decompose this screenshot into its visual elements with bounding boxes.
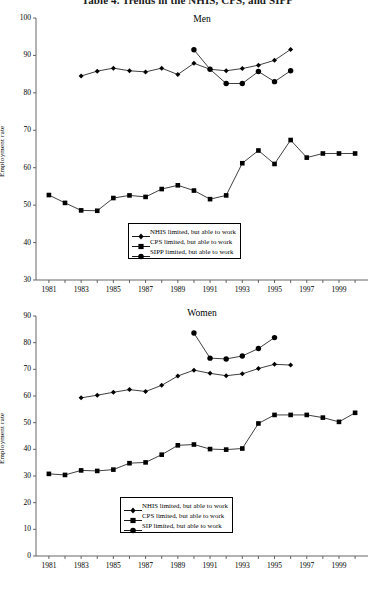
x-tick-label: 1989	[163, 285, 193, 294]
legend-item-nhis: NHIS limited, but able to work	[132, 226, 236, 236]
legend-label-cps: CPS limited, but able to work	[142, 512, 224, 519]
legend-item-cps: CPS limited, but able to work	[124, 510, 228, 520]
y-tick-label: 90	[6, 50, 31, 59]
legend-item-nhis: NHIS limited, but able to work	[124, 500, 228, 510]
legend-label-sipp: SIPP limited, but able to work	[150, 248, 234, 255]
x-tick-label: 1993	[227, 561, 257, 570]
plot-area-men	[0, 8, 375, 304]
chart-panel-men: Men Employment rate NHIS limited, but ab…	[0, 8, 375, 304]
y-tick-label: 80	[6, 88, 31, 97]
legend-item-cps: CPS limited, but able to work	[132, 236, 236, 246]
y-tick-label: 80	[6, 338, 31, 347]
y-tick-label: 20	[6, 498, 31, 507]
x-tick-label: 1987	[131, 561, 161, 570]
x-tick-label: 1991	[195, 285, 225, 294]
legend-label-sip: SIP limited, but able to work	[142, 522, 222, 529]
x-tick-label: 1981	[34, 561, 64, 570]
x-tick-label: 1995	[260, 561, 290, 570]
x-tick-label: 1997	[292, 561, 322, 570]
legend-men: NHIS limited, but able to work CPS limit…	[128, 223, 241, 259]
legend-item-sipp: SIPP limited, but able to work	[132, 246, 236, 256]
y-tick-label: 0	[6, 551, 31, 560]
diamond-marker-icon	[132, 227, 150, 236]
circle-marker-icon	[124, 521, 142, 530]
square-marker-icon	[132, 237, 150, 246]
circle-marker-icon	[132, 247, 150, 256]
y-tick-label: 70	[6, 125, 31, 134]
legend-label-nhis: NHIS limited, but able to work	[142, 502, 228, 509]
y-tick-label: 40	[6, 238, 31, 247]
square-marker-icon	[124, 511, 142, 520]
x-tick-label: 1999	[324, 561, 354, 570]
y-tick-label: 70	[6, 364, 31, 373]
x-tick-label: 1985	[98, 561, 128, 570]
x-tick-label: 1989	[163, 561, 193, 570]
diamond-marker-icon	[124, 501, 142, 510]
plot-area-women	[0, 304, 375, 594]
y-tick-label: 40	[6, 444, 31, 453]
legend-label-cps: CPS limited, but able to work	[150, 238, 232, 245]
x-tick-label: 1991	[195, 561, 225, 570]
y-tick-label: 90	[6, 311, 31, 320]
y-tick-label: 50	[6, 200, 31, 209]
figure-page: Table 4. Trends in the NHIS, CPS, and SI…	[0, 0, 375, 594]
y-tick-label: 30	[6, 471, 31, 480]
y-tick-label: 60	[6, 163, 31, 172]
legend-label-nhis: NHIS limited, but able to work	[150, 228, 236, 235]
x-tick-label: 1993	[227, 285, 257, 294]
figure-title: Table 4. Trends in the NHIS, CPS, and SI…	[0, 0, 375, 6]
x-tick-label: 1981	[34, 285, 64, 294]
x-tick-label: 1983	[66, 561, 96, 570]
legend-item-sip: SIP limited, but able to work	[124, 520, 228, 530]
y-tick-label: 60	[6, 391, 31, 400]
y-tick-label: 10	[6, 524, 31, 533]
x-tick-label: 1999	[324, 285, 354, 294]
x-tick-label: 1987	[131, 285, 161, 294]
y-tick-label: 100	[6, 13, 31, 22]
y-tick-label: 50	[6, 418, 31, 427]
legend-women: NHIS limited, but able to work CPS limit…	[120, 497, 233, 533]
x-tick-label: 1995	[260, 285, 290, 294]
chart-panel-women: Women Employment rate NHIS limited, but …	[0, 304, 375, 594]
y-tick-label: 30	[6, 275, 31, 284]
x-tick-label: 1983	[66, 285, 96, 294]
x-tick-label: 1985	[98, 285, 128, 294]
x-tick-label: 1997	[292, 285, 322, 294]
